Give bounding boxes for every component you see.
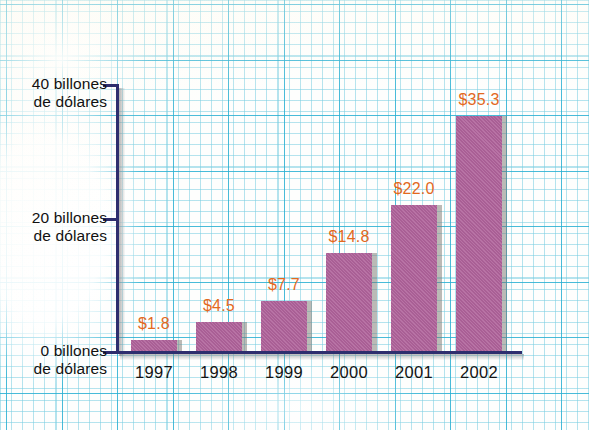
bar-value-label-2001: $22.0 bbox=[379, 180, 449, 198]
bar-2002 bbox=[456, 116, 502, 352]
bar-value-label-1999: $7.7 bbox=[249, 276, 319, 294]
y-axis-shadow bbox=[119, 88, 125, 356]
x-axis-tick-label-2001: 2001 bbox=[379, 363, 449, 382]
x-axis-shadow bbox=[120, 354, 524, 360]
y-axis-tick-label-line2-0: de dólares bbox=[34, 360, 107, 378]
x-axis-tick-label-1997: 1997 bbox=[119, 363, 189, 382]
bar-value-label-2000: $14.8 bbox=[314, 228, 384, 246]
x-axis-tick-label-1999: 1999 bbox=[249, 363, 319, 382]
chart-figure: $1.81997$4.51998$7.71999$14.82000$22.020… bbox=[0, 0, 589, 430]
y-axis-tick-label-line1-0: 0 billones bbox=[34, 342, 107, 360]
x-axis-tick-label-1998: 1998 bbox=[184, 363, 254, 382]
y-axis-tick-label-line1-20: 20 billones bbox=[32, 209, 107, 227]
bar-value-label-1998: $4.5 bbox=[184, 297, 254, 315]
x-axis-line bbox=[116, 351, 522, 354]
bar-2001 bbox=[391, 205, 437, 352]
bar-1999 bbox=[261, 301, 307, 352]
bar-1998 bbox=[196, 322, 242, 352]
bar-value-label-1997: $1.8 bbox=[119, 315, 189, 333]
bar-2000 bbox=[326, 253, 372, 352]
x-axis-tick-label-2000: 2000 bbox=[314, 363, 384, 382]
y-axis-tick-label-line2-20: de dólares bbox=[32, 227, 107, 245]
y-axis-tick-label-20: 20 billonesde dólares bbox=[32, 209, 107, 245]
y-axis-tick-label-line2-40: de dólares bbox=[32, 93, 107, 111]
y-axis-tick-label-40: 40 billonesde dólares bbox=[32, 75, 107, 111]
y-axis-tick-label-0: 0 billonesde dólares bbox=[34, 342, 107, 378]
x-axis-tick-label-2002: 2002 bbox=[444, 363, 514, 382]
bar-value-label-2002: $35.3 bbox=[444, 91, 514, 109]
y-axis-tick-label-line1-40: 40 billones bbox=[32, 75, 107, 93]
